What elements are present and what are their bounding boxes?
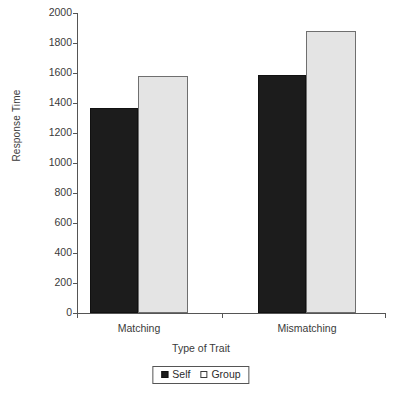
y-axis-tick-label: 1800	[12, 36, 72, 48]
filled-square-icon	[161, 371, 168, 378]
y-axis-tick	[73, 13, 78, 14]
y-axis-tick	[73, 133, 78, 134]
legend-entry-group: Group	[200, 369, 240, 380]
y-axis-tick	[73, 43, 78, 44]
open-square-icon	[200, 371, 207, 378]
bar-group-mismatching	[306, 31, 356, 313]
bar-chart: Response Time 20001800160014001200100080…	[0, 0, 402, 397]
y-axis-tick	[73, 253, 78, 254]
x-axis-tick	[385, 313, 386, 318]
bar-self-matching	[90, 108, 138, 314]
y-axis-tick	[73, 223, 78, 224]
y-axis-tick-label: 800	[12, 186, 72, 198]
x-axis-title: Type of Trait	[0, 342, 402, 354]
y-axis-tick-label: 2000	[12, 6, 72, 18]
x-axis-line	[77, 313, 385, 314]
legend-entry-self: Self	[161, 369, 190, 380]
y-axis-tick	[73, 163, 78, 164]
y-axis-tick	[73, 283, 78, 284]
y-axis-tick	[73, 193, 78, 194]
chart-legend: SelfGroup	[152, 366, 249, 384]
y-axis-tick-label: 1000	[12, 156, 72, 168]
y-axis-tick-label: 400	[12, 246, 72, 258]
bar-self-mismatching	[258, 75, 306, 314]
y-axis-tick-label: 1400	[12, 96, 72, 108]
y-axis-tick	[73, 73, 78, 74]
x-axis-category-label: Mismatching	[278, 322, 337, 334]
y-axis-tick	[73, 103, 78, 104]
y-axis-tick-label: 200	[12, 276, 72, 288]
legend-label: Group	[211, 369, 240, 380]
bar-group-matching	[138, 76, 188, 313]
y-axis-tick-label: 600	[12, 216, 72, 228]
y-axis-tick-label: 1600	[12, 66, 72, 78]
legend-label: Self	[172, 369, 190, 380]
y-axis-tick-label: 1200	[12, 126, 72, 138]
y-axis-tick-label: 0	[12, 306, 72, 318]
x-axis-category-label: Matching	[118, 322, 161, 334]
x-axis-tick	[222, 313, 223, 318]
x-axis-tick	[77, 313, 78, 318]
